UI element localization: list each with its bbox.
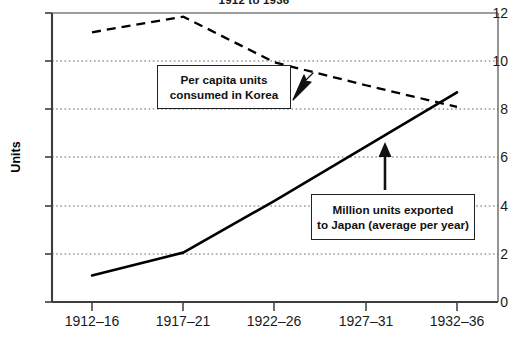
plot-frame xyxy=(52,13,498,302)
arrow-up-right-icon xyxy=(293,73,313,100)
x-tick-label: 1932–36 xyxy=(397,313,513,329)
x-tick-marks xyxy=(92,302,457,311)
annotation-korea-per-capita: Per capita units consumed in Korea xyxy=(157,65,291,109)
annotation-line-2: to Japan (average per year) xyxy=(317,217,469,232)
annotation-line-1: Million units exported xyxy=(333,202,454,217)
annotation-japan-exports: Million units exported to Japan (average… xyxy=(311,194,475,240)
annotation-line-1: Per capita units xyxy=(180,72,267,87)
annotation-line-2: consumed in Korea xyxy=(170,87,278,102)
arrow-up-icon xyxy=(379,142,392,190)
series-line-japan-exports xyxy=(92,92,457,275)
